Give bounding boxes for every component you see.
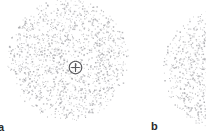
stipple-field-b [0,0,206,137]
stipple-field-a [0,0,206,137]
positive-charge-icon [68,60,83,75]
panel-label-b: b [151,121,158,132]
panel-label-a: a [0,122,4,133]
figure-root: a b [0,0,206,137]
panel-a [0,0,206,137]
panel-b [0,0,206,137]
